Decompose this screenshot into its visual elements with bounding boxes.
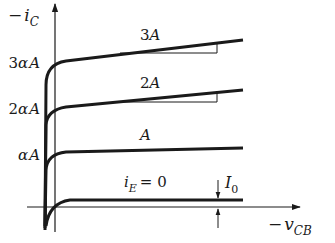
characteristics-plot: −iC −vCB 3αA 2αA αA 3A 2A A iE= 0 I0 xyxy=(0,0,335,243)
y-axis-label: −iC xyxy=(8,5,39,29)
y-tick-3alphaA: 3αA xyxy=(8,54,40,72)
curve-label-2A: 2A xyxy=(140,74,161,92)
curve-label-iE-0: iE= 0 xyxy=(124,173,167,195)
curve-iE-0 xyxy=(46,200,243,226)
y-tick-alphaA: αA xyxy=(18,146,40,164)
diagram-canvas: −iC −vCB 3αA 2αA αA 3A 2A A iE= 0 I0 xyxy=(0,0,335,243)
y-tick-2alphaA: 2αA xyxy=(8,100,40,118)
x-axis-label: −vCB xyxy=(268,214,312,238)
curve-label-A: A xyxy=(138,126,151,144)
curve-label-3A: 3A xyxy=(140,26,161,44)
i0-label: I0 xyxy=(224,173,238,196)
